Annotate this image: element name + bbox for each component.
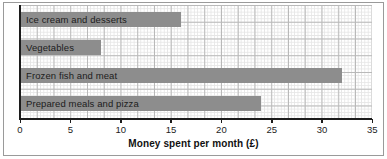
bar-label-prepared-meals-and-pizza: Prepared meals and pizza: [26, 96, 139, 111]
x-axis-tick-label: 0: [5, 124, 35, 135]
x-axis-tick-label: 15: [156, 124, 186, 135]
x-axis-tick: [70, 119, 72, 123]
x-axis-tick: [271, 119, 273, 123]
x-axis-tick-label: 30: [307, 124, 337, 135]
x-axis-title: Money spent per month (£): [0, 138, 387, 149]
x-axis-tick-label: 5: [56, 124, 86, 135]
x-axis-tick: [170, 119, 172, 123]
bar-label-vegetables: Vegetables: [26, 40, 74, 55]
y-axis-line: [19, 5, 21, 119]
bar-label-ice-cream-and-desserts: Ice cream and desserts: [26, 12, 127, 27]
x-axis-tick: [221, 119, 223, 123]
x-axis-tick: [321, 119, 323, 123]
x-axis-tick-label: 25: [257, 124, 287, 135]
bars-layer: Ice cream and desserts Vegetables Frozen…: [20, 5, 372, 118]
bar-label-frozen-fish-and-meat: Frozen fish and meat: [26, 68, 117, 83]
x-axis-tick-label: 20: [206, 124, 236, 135]
x-axis-tick: [372, 119, 374, 123]
bar-chart: Ice cream and desserts Vegetables Frozen…: [0, 0, 387, 159]
x-axis-tick-label: 35: [357, 124, 387, 135]
x-axis-tick: [120, 119, 122, 123]
x-axis-tick-label: 10: [106, 124, 136, 135]
x-axis-line: [19, 118, 372, 120]
x-axis-tick: [20, 119, 22, 123]
